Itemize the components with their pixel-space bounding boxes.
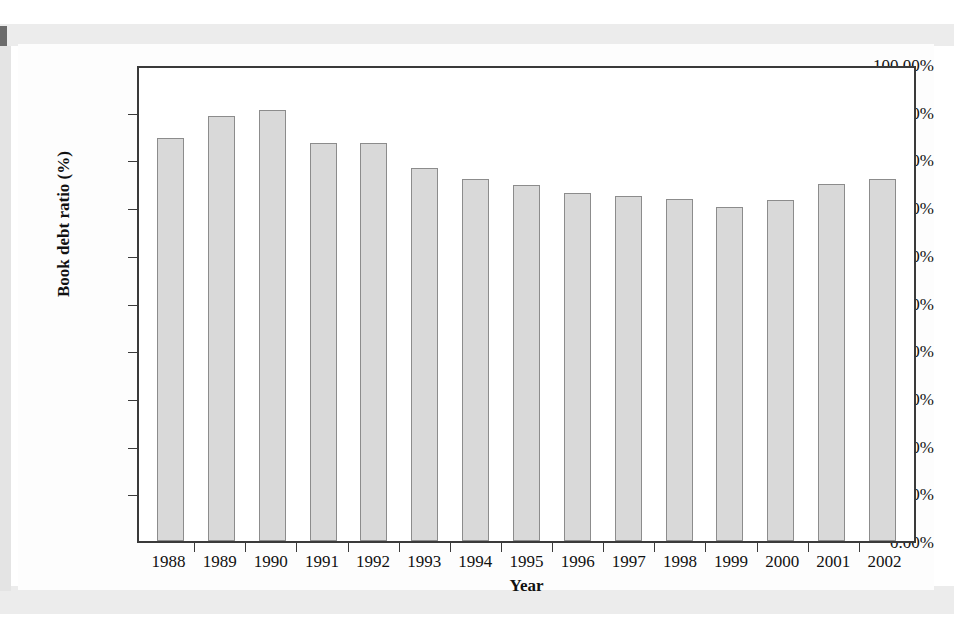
x-tick-mark xyxy=(654,543,655,552)
y-axis-title: Book debt ratio (%) xyxy=(54,94,74,354)
bar-1988 xyxy=(157,138,184,541)
x-axis-title: Year xyxy=(137,576,916,596)
bar-1992 xyxy=(360,143,387,541)
x-tick-mark xyxy=(808,543,809,552)
scan-left-edge xyxy=(0,46,11,591)
bar-slot xyxy=(654,68,705,541)
bar-slot xyxy=(247,68,298,541)
bar-1994 xyxy=(462,179,489,541)
bar-1991 xyxy=(310,143,337,541)
bar-slot xyxy=(552,68,603,541)
x-tick-mark xyxy=(859,543,860,552)
bar-slot xyxy=(603,68,654,541)
bar-1993 xyxy=(411,168,438,541)
bar-2001 xyxy=(818,184,845,541)
bar-slot xyxy=(857,68,908,541)
bar-1989 xyxy=(208,116,235,541)
x-tick-mark xyxy=(757,543,758,552)
bar-slot xyxy=(755,68,806,541)
x-tick-label: 2002 xyxy=(854,552,914,572)
x-tick-mark xyxy=(705,543,706,552)
bar-1990 xyxy=(259,110,286,541)
x-tick-mark xyxy=(603,543,604,552)
x-tick-mark xyxy=(245,543,246,552)
bar-2002 xyxy=(869,179,896,541)
bar-1998 xyxy=(666,199,693,541)
bar-slot xyxy=(348,68,399,541)
x-tick-mark xyxy=(552,543,553,552)
bar-chart: 100.00%90.00%80.00%70.00%60.00%50.00%40.… xyxy=(18,44,934,590)
x-tick-mark xyxy=(501,543,502,552)
bar-1996 xyxy=(564,193,591,541)
x-tick-mark xyxy=(194,543,195,552)
bar-slot xyxy=(399,68,450,541)
bar-slot xyxy=(501,68,552,541)
x-tick-mark xyxy=(450,543,451,552)
bar-slot xyxy=(145,68,196,541)
scan-band-top xyxy=(0,24,954,46)
bar-1999 xyxy=(716,207,743,541)
bar-slot xyxy=(450,68,501,541)
plot-frame xyxy=(137,66,916,543)
bar-1997 xyxy=(615,196,642,541)
bar-1995 xyxy=(513,185,540,541)
x-tick-mark xyxy=(399,543,400,552)
x-tick-mark xyxy=(296,543,297,552)
bar-series xyxy=(139,68,914,541)
bar-slot xyxy=(704,68,755,541)
bar-slot xyxy=(298,68,349,541)
bar-slot xyxy=(196,68,247,541)
figure-card: 100.00%90.00%80.00%70.00%60.00%50.00%40.… xyxy=(18,44,934,590)
x-tick-mark xyxy=(348,543,349,552)
bar-slot xyxy=(806,68,857,541)
bar-2000 xyxy=(767,200,794,541)
